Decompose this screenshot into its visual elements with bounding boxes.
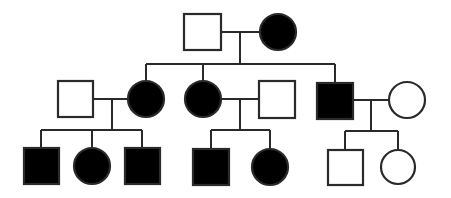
individual-II-5-male-affected — [317, 83, 353, 119]
pedigree-chart — [0, 0, 451, 198]
individual-III-2-female-affected — [74, 148, 110, 184]
individual-II-2-female-affected — [128, 81, 164, 117]
individual-III-3-male-affected — [125, 148, 160, 184]
sibship-II — [146, 64, 335, 83]
pedigree-svg — [0, 0, 451, 198]
individual-III-5-female-affected — [252, 149, 288, 185]
individual-I-2-female-affected — [260, 14, 296, 50]
individual-III-6-male-unaffected — [328, 150, 363, 185]
individual-II-6-female-unaffected — [389, 82, 425, 118]
individual-I-1-male-unaffected — [184, 14, 221, 50]
individual-III-1-male-affected — [24, 148, 59, 184]
individual-III-7-female-unaffected — [381, 150, 415, 184]
individual-II-4-male-unaffected — [259, 81, 295, 118]
generation-1 — [184, 14, 296, 64]
individual-II-3-female-affected — [185, 81, 221, 117]
sibship-III — [41, 130, 398, 150]
generation-3 — [24, 148, 415, 185]
individual-II-1-male-unaffected — [58, 81, 93, 117]
individual-III-4-male-affected — [193, 149, 229, 185]
